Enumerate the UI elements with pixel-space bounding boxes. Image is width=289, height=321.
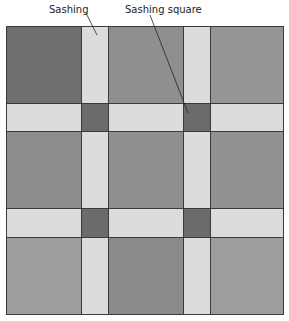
sashing-strip <box>183 131 211 209</box>
sashing-square <box>183 103 211 132</box>
quilt-block <box>210 237 284 315</box>
quilt-block <box>108 237 184 315</box>
sashing-square <box>81 103 109 132</box>
sashing-square <box>183 208 211 238</box>
quilt-block <box>6 131 82 209</box>
sashing-label: Sashing <box>49 4 89 15</box>
sashing-strip <box>81 131 109 209</box>
sashing-strip <box>6 103 82 132</box>
quilt-block <box>210 131 284 209</box>
sashing-square <box>81 208 109 238</box>
quilt-block <box>108 26 184 104</box>
sashing-strip <box>6 208 82 238</box>
sashing-strip <box>210 208 284 238</box>
sashing-strip <box>108 208 184 238</box>
sashing-strip <box>183 26 211 104</box>
quilt-block <box>210 26 284 104</box>
sashing-strip <box>210 103 284 132</box>
sashing-strip <box>183 237 211 315</box>
quilt-block <box>6 237 82 315</box>
sashing-strip <box>81 237 109 315</box>
quilt-block <box>108 131 184 209</box>
sashing-strip <box>81 26 109 104</box>
sashing-square-label: Sashing square <box>125 4 202 15</box>
sashing-strip <box>108 103 184 132</box>
quilt-block <box>6 26 82 104</box>
